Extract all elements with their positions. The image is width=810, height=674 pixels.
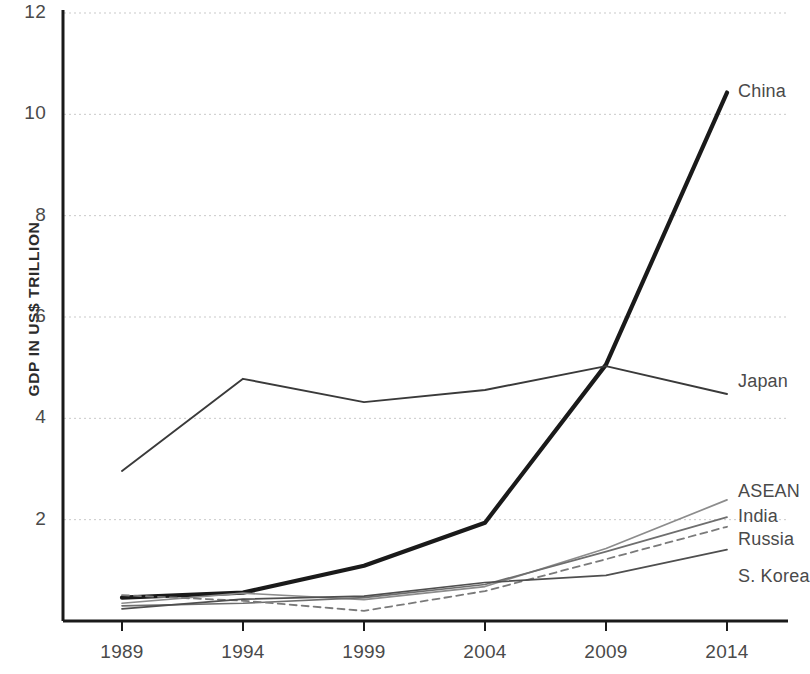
y-tick-label-8: 8	[0, 204, 46, 226]
x-tick-label-2004: 2004	[440, 641, 530, 663]
y-tick-label-2: 2	[0, 508, 46, 530]
series-label-china: China	[738, 81, 786, 102]
gridlines-group	[64, 13, 788, 520]
y-tick-label-6: 6	[0, 305, 46, 327]
x-tick-label-2009: 2009	[561, 641, 651, 663]
label-leader-lines-group	[727, 383, 732, 578]
x-tick-label-2014: 2014	[682, 641, 772, 663]
series-label-asean: ASEAN	[738, 481, 800, 502]
y-tick-label-10: 10	[0, 102, 46, 124]
series-label-japan: Japan	[738, 371, 788, 392]
series-lines-group	[122, 93, 727, 611]
x-tick-label-1994: 1994	[198, 641, 288, 663]
y-tick-label-12: 12	[0, 1, 46, 23]
y-tick-label-4: 4	[0, 406, 46, 428]
series-line-china	[122, 93, 727, 598]
series-label-india: India	[738, 506, 778, 527]
series-label-russia: Russia	[738, 529, 794, 550]
x-tick-label-1999: 1999	[319, 641, 409, 663]
series-label-s-korea: S. Korea	[738, 566, 810, 587]
x-tick-label-1989: 1989	[77, 641, 167, 663]
axes-group	[63, 10, 788, 621]
